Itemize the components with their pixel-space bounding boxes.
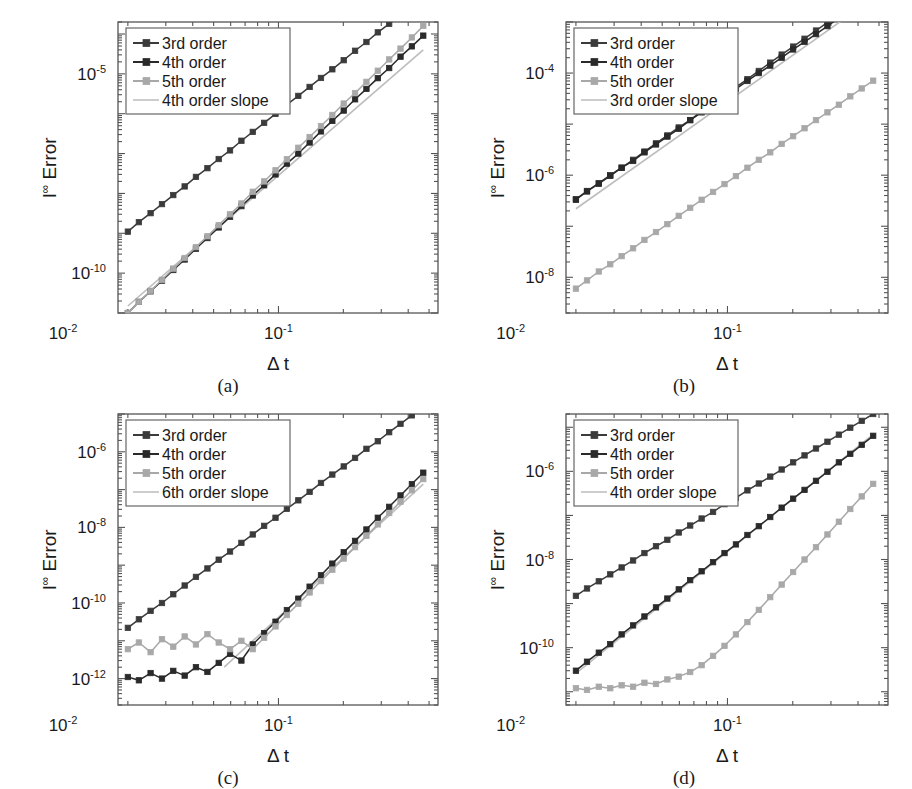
legend-marker [591, 470, 598, 477]
legend-marker [591, 59, 598, 66]
legend-label: 4th order slope [162, 92, 269, 109]
legend-d: 3rd order4th order5th order4th order slo… [574, 420, 738, 506]
tick-label: 10-6 [525, 164, 554, 185]
chart-c: 10-210-110-610-810-1010-12Δ tl∞ Error3rd… [0, 392, 456, 784]
legend-label: 3rd order [162, 35, 228, 52]
legend-label: 4th order [610, 446, 675, 463]
svg-text:l∞ Error: l∞ Error [38, 529, 60, 590]
legend-a: 3rd order4th order5th order4th order slo… [126, 28, 290, 114]
tick-label: 10-10 [519, 637, 554, 658]
panel-caption-c: (c) [0, 767, 456, 789]
legend-marker [143, 470, 150, 477]
chart-a: 10-210-110-510-10Δ tl∞ Error3rd order4th… [0, 0, 456, 392]
legend-label: 6th order slope [162, 484, 269, 501]
tick-label: 10-2 [496, 714, 525, 735]
legend-label: 3rd order slope [610, 92, 718, 109]
legend-label: 4th order slope [610, 484, 717, 501]
legend-marker [143, 78, 150, 85]
legend-c: 3rd order4th order5th order6th order slo… [126, 420, 290, 506]
tick-label: 10-5 [77, 63, 106, 84]
legend-label: 4th order [162, 446, 227, 463]
tick-label: 10-10 [71, 592, 106, 613]
tick-label: 10-6 [525, 460, 554, 481]
tick-label: 10-4 [525, 62, 554, 83]
tick-label: 10-1 [264, 714, 293, 735]
legend-marker [143, 451, 150, 458]
panel-a: 10-210-110-510-10Δ tl∞ Error3rd order4th… [0, 0, 456, 392]
tick-label: 10-1 [713, 714, 742, 735]
x-axis-label: Δ t [267, 745, 290, 766]
legend-marker [591, 451, 598, 458]
tick-label: 10-10 [71, 262, 106, 283]
x-axis-label: Δ t [267, 353, 290, 374]
tick-label: 10-1 [713, 322, 742, 343]
panel-c: 10-210-110-610-810-1010-12Δ tl∞ Error3rd… [0, 392, 456, 784]
tick-label: 10-2 [49, 714, 78, 735]
panel-caption-d: (d) [456, 767, 912, 789]
legend-marker [143, 59, 150, 66]
legend-marker [591, 40, 598, 47]
y-axis-label: l∞ Error [38, 137, 60, 198]
panel-b: 10-210-110-410-610-8Δ tl∞ Error3rd order… [456, 0, 912, 392]
y-axis-label: l∞ Error [486, 529, 508, 590]
chart-b: 10-210-110-410-610-8Δ tl∞ Error3rd order… [456, 0, 912, 392]
panel-d: 10-210-110-610-810-10Δ tl∞ Error3rd orde… [456, 392, 912, 784]
legend-label: 3rd order [162, 427, 228, 444]
tick-label: 10-1 [264, 322, 293, 343]
y-axis-label: l∞ Error [486, 137, 508, 198]
tick-label: 10-8 [525, 266, 554, 287]
tick-label: 10-2 [49, 322, 78, 343]
legend-label: 5th order [162, 73, 227, 90]
legend-b: 3rd order4th order5th order3rd order slo… [574, 28, 738, 114]
legend-label: 3rd order [610, 427, 676, 444]
legend-label: 5th order [610, 465, 675, 482]
chart-d: 10-210-110-610-810-10Δ tl∞ Error3rd orde… [456, 392, 912, 784]
legend-marker [143, 40, 150, 47]
y-axis-label: l∞ Error [38, 529, 60, 590]
tick-label: 10-8 [77, 516, 106, 537]
legend-label: 5th order [162, 465, 227, 482]
svg-text:l∞ Error: l∞ Error [486, 529, 508, 590]
svg-text:l∞ Error: l∞ Error [486, 137, 508, 198]
tick-label: 10-2 [496, 322, 525, 343]
x-axis-label: Δ t [716, 353, 739, 374]
svg-text:l∞ Error: l∞ Error [38, 137, 60, 198]
tick-label: 10-6 [77, 441, 106, 462]
legend-label: 5th order [610, 73, 675, 90]
legend-marker [591, 432, 598, 439]
tick-label: 10-12 [71, 668, 106, 689]
tick-label: 10-8 [525, 549, 554, 570]
legend-label: 3rd order [610, 35, 676, 52]
legend-label: 4th order [162, 54, 227, 71]
legend-marker [591, 78, 598, 85]
legend-label: 4th order [610, 54, 675, 71]
legend-marker [143, 432, 150, 439]
x-axis-label: Δ t [716, 745, 739, 766]
